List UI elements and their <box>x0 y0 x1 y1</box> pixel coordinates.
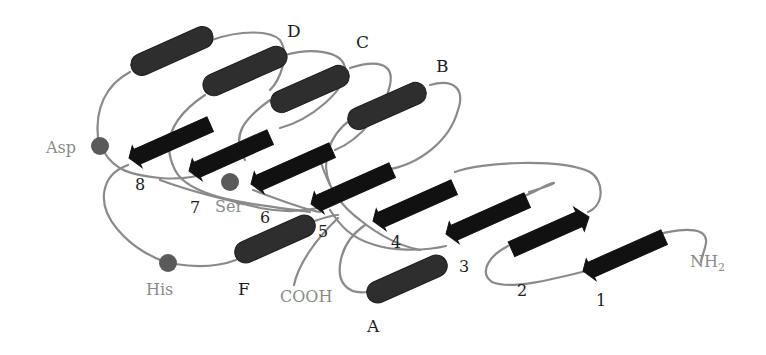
loop-his-F <box>175 260 236 266</box>
label-nh: NH <box>690 252 718 271</box>
label-asp: Asp <box>45 138 76 157</box>
ser-residue-dot <box>221 173 239 191</box>
label-nh2: NH2 <box>690 252 725 274</box>
helix-top-left <box>127 23 216 79</box>
helix-D <box>199 43 290 100</box>
label-helix-D: D <box>287 21 301 41</box>
label-strand-2: 2 <box>517 281 527 300</box>
label-helix-A: A <box>366 316 380 336</box>
helix-B <box>344 79 430 133</box>
label-cooh: COOH <box>280 287 332 306</box>
label-helix-F: F <box>238 279 250 299</box>
label-nh2-subscript: 2 <box>718 261 725 274</box>
loop-A <box>340 225 368 292</box>
strand-4 <box>369 176 459 234</box>
label-strand-8: 8 <box>135 175 145 194</box>
label-strand-5: 5 <box>318 222 328 241</box>
label-strand-4: 4 <box>391 233 401 252</box>
label-strand-6: 6 <box>260 208 270 227</box>
label-ser: Ser <box>215 197 243 216</box>
label-helix-C: C <box>356 32 369 52</box>
loop-asp-top <box>97 72 130 138</box>
asp-residue-dot <box>91 137 109 155</box>
strand-1 <box>579 226 669 284</box>
label-strand-3: 3 <box>459 257 469 276</box>
helix-C <box>267 62 353 116</box>
label-his: His <box>146 280 173 299</box>
strand-5 <box>307 159 397 217</box>
label-helix-B: B <box>436 56 449 76</box>
his-residue-dot <box>159 254 177 272</box>
loop-1-2 <box>486 246 586 285</box>
helix-A <box>363 251 451 306</box>
label-strand-1: 1 <box>596 291 606 310</box>
strands <box>125 113 669 284</box>
label-strand-7: 7 <box>190 198 200 217</box>
protein-topology-diagram: D C B F A 1 2 3 4 5 6 7 8 Asp Ser His CO… <box>0 0 766 355</box>
